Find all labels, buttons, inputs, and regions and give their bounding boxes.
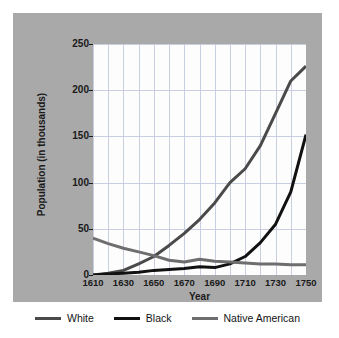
legend-item[interactable]: Native American [192,312,300,324]
x-tick-label: 1690 [204,277,225,288]
y-tick-label: 50 [55,224,89,234]
plot-svg [93,44,306,275]
y-tick-label: 150 [55,131,89,141]
plot-area [93,44,306,275]
legend-swatch-icon [114,317,140,320]
x-axis-ticks: 16101630165016701690171017301750 [93,277,306,291]
series-line [93,135,306,275]
chart-figure-panel: 050100150200250 161016301650167016901710… [13,13,322,302]
y-axis-ticks: 050100150200250 [51,44,89,275]
x-gridlines [94,44,307,275]
legend-label: Native American [224,312,300,324]
x-axis-label: Year [93,291,306,302]
y-tick-mark [89,275,93,276]
y-tick-label: 200 [55,85,89,95]
series-lines [93,66,306,275]
legend-item[interactable]: Black [114,312,172,324]
x-tick-label: 1670 [174,277,195,288]
series-line [93,66,306,275]
x-tick-label: 1750 [295,277,316,288]
series-line [93,238,306,265]
y-axis-label: Population (in thousands) [36,65,47,245]
legend-label: White [67,312,94,324]
legend-swatch-icon [35,317,61,320]
x-tick-label: 1710 [235,277,256,288]
legend-label: Black [146,312,172,324]
chart-legend: WhiteBlackNative American [13,310,322,326]
x-tick-label: 1730 [265,277,286,288]
legend-item[interactable]: White [35,312,94,324]
x-tick-label: 1650 [143,277,164,288]
x-tick-label: 1610 [82,277,103,288]
legend-swatch-icon [192,317,218,320]
y-tick-label: 250 [55,39,89,49]
x-tick-label: 1630 [113,277,134,288]
y-tick-label: 100 [55,178,89,188]
y-gridlines [93,45,306,276]
